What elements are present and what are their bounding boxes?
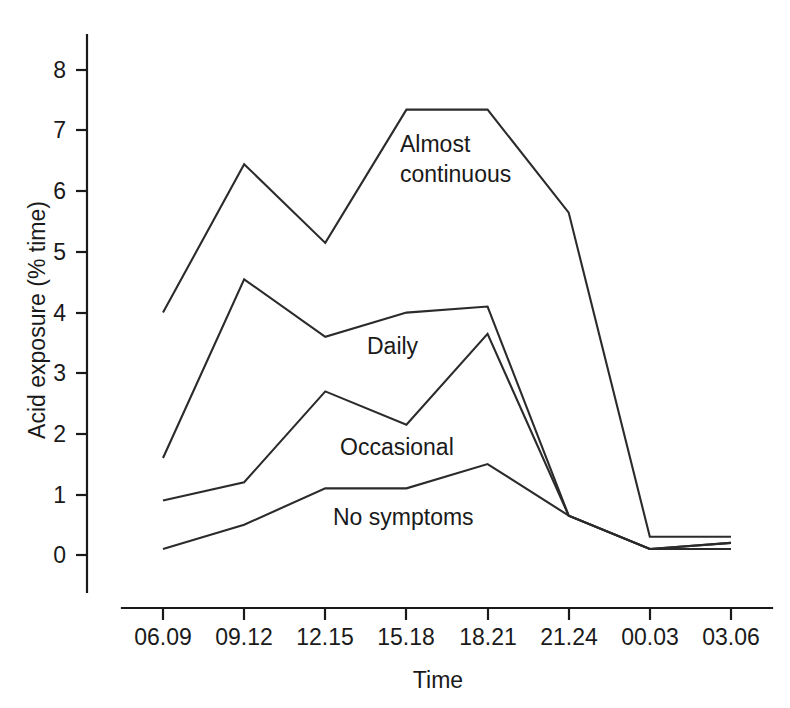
y-tick-label: 4 <box>53 300 66 326</box>
line-chart-canvas: 8 7 6 5 4 3 2 1 0 06.09 09.12 12.15 15.1 <box>0 0 790 708</box>
x-tick-label: 21.24 <box>540 624 598 650</box>
x-tick-label: 12.15 <box>296 624 354 650</box>
series-label-no-symptoms: No symptoms <box>333 504 474 530</box>
x-tick-label: 09.12 <box>215 624 273 650</box>
x-tick-marks <box>163 608 731 620</box>
x-tick-label: 15.18 <box>377 624 435 650</box>
x-tick-labels: 06.09 09.12 12.15 15.18 18.21 21.24 00.0… <box>134 624 760 650</box>
y-tick-labels: 8 7 6 5 4 3 2 1 0 <box>53 57 66 568</box>
series-label-almost-continuous-line2: continuous <box>400 161 511 187</box>
y-axis-title: Acid exposure (% time) <box>24 201 50 439</box>
y-tick-label: 6 <box>53 178 66 204</box>
y-tick-label: 8 <box>53 57 66 83</box>
x-tick-label: 03.06 <box>702 624 760 650</box>
y-tick-marks <box>76 70 87 555</box>
y-tick-label: 0 <box>53 542 66 568</box>
series-label-occasional: Occasional <box>340 434 454 460</box>
y-tick-label: 1 <box>53 482 66 508</box>
x-axis-title: Time <box>413 667 463 693</box>
x-tick-label: 00.03 <box>621 624 679 650</box>
series-label-almost-continuous-line1: Almost <box>400 131 471 157</box>
y-tick-label: 7 <box>53 117 66 143</box>
series-label-daily: Daily <box>367 333 419 359</box>
y-tick-label: 2 <box>53 421 66 447</box>
y-tick-label: 5 <box>53 239 66 265</box>
chart-figure: 8 7 6 5 4 3 2 1 0 06.09 09.12 12.15 15.1 <box>0 0 790 708</box>
x-tick-label: 06.09 <box>134 624 192 650</box>
y-tick-label: 3 <box>53 360 66 386</box>
x-tick-label: 18.21 <box>459 624 517 650</box>
